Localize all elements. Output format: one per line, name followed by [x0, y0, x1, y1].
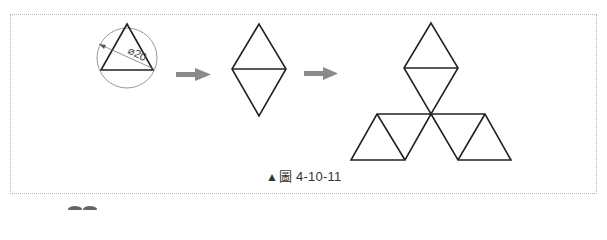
arrow-right-icon: [304, 67, 338, 80]
arrow-right-icon: [176, 68, 211, 81]
circumscribed-circle: [97, 28, 157, 88]
dimension-arrowhead: [99, 44, 106, 49]
triangle-marker-icon: ▲: [266, 170, 278, 184]
page-decoration: [66, 202, 100, 210]
right-rhombus-diagonal: [458, 114, 485, 160]
step2-rhombus: [232, 24, 286, 116]
step3-emblem: [351, 23, 511, 160]
left-rhombus-diagonal: [377, 114, 405, 160]
figure-caption: ▲圖 4-10-11: [266, 166, 341, 185]
dimension-label: ⌀20: [126, 44, 149, 63]
caption-text: 圖 4-10-11: [279, 169, 341, 184]
inscribed-triangle: [101, 24, 153, 70]
step1-circle-triangle: ⌀20: [97, 24, 157, 88]
rhombus-outline: [232, 24, 286, 116]
